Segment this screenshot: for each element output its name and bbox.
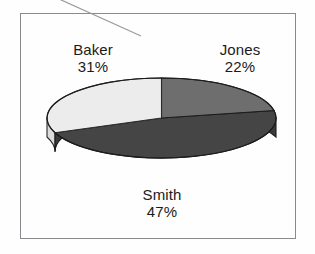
pie-label-smith: Smith 47% [126, 186, 198, 220]
pie-label-baker-name: Baker [57, 41, 129, 58]
pie-label-smith-name: Smith [126, 186, 198, 203]
pie-label-jones-name: Jones [204, 41, 276, 58]
pie-label-jones-percent: 22% [204, 58, 276, 75]
pie-label-jones: Jones 22% [204, 41, 276, 75]
pie-label-baker-percent: 31% [57, 58, 129, 75]
pie-slice-jones-top [162, 78, 274, 118]
pie-label-baker: Baker 31% [57, 41, 129, 75]
figure-root: Baker 31% Jones 22% Smith 47% [0, 0, 315, 254]
pie-label-smith-percent: 47% [126, 203, 198, 220]
